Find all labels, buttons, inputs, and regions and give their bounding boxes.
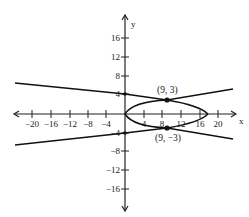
loop-left-upper [125, 89, 233, 114]
y-tick-label: −12 [106, 165, 120, 175]
y-tick-label: 12 [111, 52, 120, 62]
x-tick-label: −8 [83, 119, 93, 129]
point-9-neg3 [164, 125, 169, 130]
point-0-4 [123, 92, 127, 96]
chart-canvas: −20 −16 −12 −8 −4 4 8 12 16 20 16 12 8 4… [0, 0, 249, 217]
x-tick-label: −12 [63, 119, 77, 129]
y-tick-label: 16 [111, 33, 121, 43]
x-tick-labels: −20 −16 −12 −8 −4 4 8 12 16 20 [25, 119, 223, 129]
annotation-9-neg3: (9, −3) [155, 133, 181, 144]
point-0-neg4 [123, 131, 127, 135]
point-9-3 [164, 97, 169, 102]
x-tick-label: 20 [214, 119, 224, 129]
y-tick-label: 8 [116, 71, 121, 81]
x-tick-label: −20 [25, 119, 40, 129]
y-tick-label: −16 [106, 184, 121, 194]
x-axis-label: x [239, 116, 244, 126]
annotation-9-3: (9, 3) [157, 85, 178, 96]
y-tick-label: −8 [110, 146, 120, 156]
x-tick-label: −16 [44, 119, 59, 129]
y-axis-label: y [131, 19, 136, 29]
